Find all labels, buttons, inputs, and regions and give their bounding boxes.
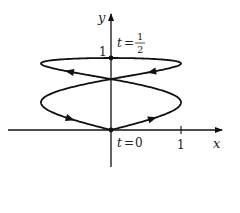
figure-canvas: y x 1 1 t = 0 t = 1 2 (0, 0, 240, 213)
svg-text:2: 2 (137, 44, 143, 55)
start-point (109, 128, 114, 133)
arrow-icon (65, 114, 76, 124)
top-annotation: t = 1 2 (117, 31, 145, 55)
x-tick-label: 1 (177, 138, 185, 152)
parametric-curve-figure: y x 1 1 t = 0 t = 1 2 (0, 0, 240, 213)
svg-text:1: 1 (137, 31, 143, 42)
y-tick-label: 1 (99, 45, 107, 59)
svg-text:=: = (124, 136, 134, 150)
arrow-icon (147, 114, 158, 124)
y-axis-label: y (97, 10, 106, 25)
svg-text:t: t (117, 136, 122, 150)
start-annotation: t = 0 (117, 136, 143, 150)
top-point (109, 56, 114, 61)
svg-text:0: 0 (135, 136, 143, 150)
svg-text:t: t (117, 36, 122, 50)
x-axis-label: x (213, 136, 221, 151)
svg-text:=: = (124, 36, 134, 50)
